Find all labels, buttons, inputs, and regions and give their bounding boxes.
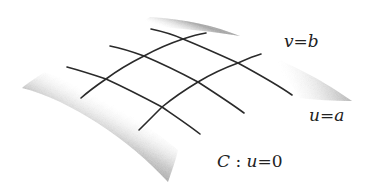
surface-diagram: v=b u=a C : u=0: [0, 0, 369, 183]
label-u-equals-a: u=a: [309, 105, 344, 125]
label-curve-c-u-equals-0: C : u=0: [217, 151, 283, 171]
label-v-equals-b: v=b: [284, 31, 319, 51]
